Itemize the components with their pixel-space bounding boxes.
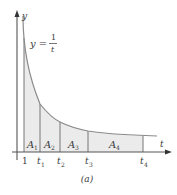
svg-text:2: 2 xyxy=(51,144,55,151)
area-under-curve-diagram: y t y = 1 t A 1 A 2 A 3 A 4 1 t 1 t 2 t … xyxy=(0,0,177,195)
tick-label-t1: t 1 xyxy=(37,156,45,168)
svg-text:1: 1 xyxy=(41,161,45,168)
svg-text:1: 1 xyxy=(51,33,56,42)
svg-text:A: A xyxy=(26,139,34,150)
tick-label-t4: t 4 xyxy=(140,156,148,168)
tick-label-t3: t 3 xyxy=(85,156,93,168)
t-axis-label: t xyxy=(160,139,164,149)
tick-label-t2: t 2 xyxy=(57,156,65,168)
svg-text:4: 4 xyxy=(144,161,148,168)
t-axis-arrow-icon xyxy=(165,150,172,155)
svg-text:2: 2 xyxy=(61,161,65,168)
tick-label-1: 1 xyxy=(22,156,28,166)
svg-text:A: A xyxy=(67,139,75,150)
svg-text:A: A xyxy=(108,139,116,150)
equation-label: y = 1 t xyxy=(29,33,57,54)
y-axis-arrow-icon xyxy=(15,10,20,17)
svg-text:3: 3 xyxy=(75,144,79,151)
svg-text:t: t xyxy=(51,45,55,54)
svg-text:4: 4 xyxy=(116,144,120,151)
svg-text:1: 1 xyxy=(34,144,38,151)
svg-text:y =: y = xyxy=(29,38,47,49)
y-axis-label: y xyxy=(21,11,28,21)
figure-caption: (a) xyxy=(81,174,94,184)
svg-text:A: A xyxy=(43,139,51,150)
svg-text:3: 3 xyxy=(89,161,93,168)
